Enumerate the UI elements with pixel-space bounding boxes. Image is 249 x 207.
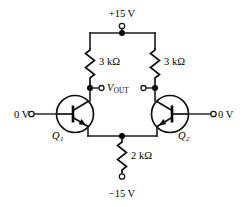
q2-label-subscript: 2 [186, 135, 190, 143]
negative-supply-label: −15 V [109, 188, 136, 199]
positive-supply-label: +15 V [109, 8, 136, 19]
output-label: VOUT [107, 82, 129, 95]
left-collector-resistor [86, 48, 95, 88]
left-input-label: 0 V [14, 109, 30, 120]
q2-label: Q2 [178, 130, 190, 143]
right-input-terminal[interactable] [211, 111, 216, 116]
q1-emitter-arrow [79, 119, 85, 124]
positive-supply-branch [90, 23, 155, 48]
left-resistor-zigzag [86, 48, 95, 88]
right-resistor-label: 3 kΩ [164, 56, 185, 67]
right-collector-resistor [151, 48, 160, 88]
q1-label-main: Q [52, 130, 60, 141]
output-label-subscript: OUT [114, 87, 129, 95]
q2-collector-lead [157, 102, 172, 111]
right-input-branch [189, 111, 217, 116]
left-input-terminal[interactable] [29, 111, 34, 116]
tail-resistor-zigzag [118, 136, 127, 174]
q1-collector-lead [73, 102, 88, 111]
right-input-label: 0 V [218, 109, 234, 120]
q2-label-main: Q [178, 130, 186, 141]
circuit-diagram: +15 V −15 V 3 kΩ 3 kΩ 2 kΩ 0 V 0 V VOUT … [0, 0, 249, 207]
negative-supply-terminal[interactable] [119, 174, 124, 179]
q2-emitter-arrow [160, 119, 166, 124]
right-output-terminal[interactable] [141, 86, 146, 91]
left-input-branch [29, 111, 57, 116]
right-resistor-zigzag [151, 48, 160, 88]
left-resistor-label: 3 kΩ [99, 56, 120, 67]
q1-label: Q1 [52, 130, 63, 143]
schematic-canvas: +15 V −15 V 3 kΩ 3 kΩ 2 kΩ 0 V 0 V VOUT … [0, 0, 249, 207]
q1-label-subscript: 1 [60, 135, 64, 143]
positive-supply-terminal[interactable] [119, 23, 124, 28]
left-output-terminal[interactable] [99, 86, 104, 91]
tail-resistor-label: 2 kΩ [131, 150, 152, 161]
top-rail-junction-dot [119, 30, 125, 36]
